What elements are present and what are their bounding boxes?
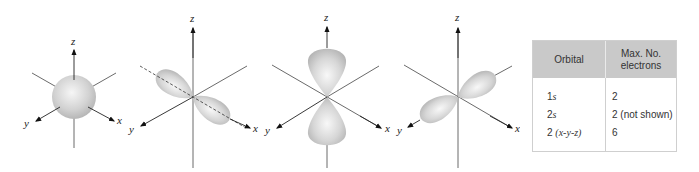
orbital-electron-table: Orbital Max. No. electrons 1s 2s 2 (x-y-…: [532, 40, 677, 152]
table-body: 1s 2s 2 (x-y-z) 2 2 (not shown) 6: [533, 78, 676, 151]
header-max-no: Max. No.: [621, 48, 662, 60]
x-axis-label: x: [384, 122, 390, 134]
py-lobe-negative: [415, 87, 464, 128]
y-axis-arrow: [408, 120, 420, 127]
y-axis-label: y: [23, 117, 29, 129]
x-axis-arrow: [88, 107, 114, 121]
s-orbital-sphere: [52, 75, 96, 119]
y-axis-label: y: [128, 123, 134, 135]
electrons-column: 2 2 (not shown) 6: [606, 78, 676, 151]
x-axis-arrow: [360, 116, 381, 128]
z-axis-label: z: [70, 35, 76, 47]
table-row-electrons: 6: [612, 124, 676, 142]
orbital-subshell: (x-y-z): [555, 127, 581, 138]
table-row-orbital: 2s: [547, 106, 605, 124]
x-axis-label: x: [116, 114, 122, 126]
y-axis-arrow: [36, 107, 60, 121]
header-max-electrons: Max. No. electrons: [606, 41, 676, 78]
x-axis-arrow: [490, 116, 512, 128]
orbital-subshell: s: [553, 109, 557, 120]
table-header: Orbital Max. No. electrons: [533, 41, 676, 78]
header-electrons: electrons: [621, 60, 662, 72]
y-axis-label: y: [264, 124, 270, 136]
header-orbital: Orbital: [533, 41, 606, 78]
pz-lobe-upper: [308, 49, 346, 97]
py-orbital-diagram: z y x: [396, 11, 520, 168]
py-lobe-positive: [452, 66, 501, 107]
z-axis-label: z: [189, 12, 195, 24]
z-axis-label: z: [323, 11, 329, 23]
table-row-electrons: 2 (not shown): [612, 106, 676, 124]
x-axis-label: x: [252, 122, 258, 134]
orbital-diagrams: z y x z y x z y x: [0, 0, 520, 172]
y-axis-arrow: [141, 97, 193, 126]
pz-orbital-diagram: z y x: [264, 11, 390, 168]
table-row-electrons: 2: [612, 88, 676, 106]
px-lobe-negative: [151, 64, 199, 106]
x-axis-label: x: [514, 122, 520, 134]
table-row-orbital: 2 (x-y-z): [547, 124, 605, 142]
table-row-orbital: 1s: [547, 88, 605, 106]
z-axis-label: z: [454, 11, 460, 23]
orbital-column: 1s 2s 2 (x-y-z): [533, 78, 606, 151]
s-orbital-diagram: z y x: [23, 35, 122, 148]
orbital-subshell: s: [553, 91, 557, 102]
px-orbital-diagram: z y x: [128, 12, 258, 168]
y-axis-label: y: [396, 124, 402, 136]
px-lobe-positive: [187, 88, 235, 130]
x-axis-arrow: [230, 119, 250, 128]
